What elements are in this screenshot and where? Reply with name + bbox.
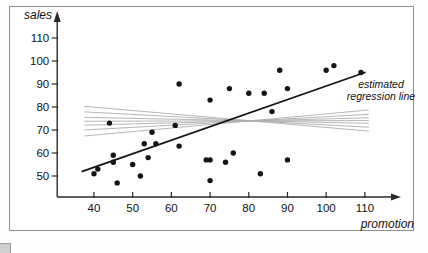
x-tick-label: 80	[242, 202, 255, 214]
data-point	[142, 141, 147, 146]
data-point	[331, 63, 336, 68]
annotation-line-1: estimated	[338, 79, 424, 91]
regression-line-annotation: estimated regression line	[338, 79, 424, 102]
x-axis-title: promotion	[344, 217, 414, 231]
x-tick-label: 50	[126, 202, 139, 214]
data-point	[258, 171, 263, 176]
data-point	[95, 166, 100, 171]
y-axis-title: sales	[24, 8, 52, 22]
data-point	[176, 143, 181, 148]
data-point	[114, 180, 119, 185]
y-tick-label: 90	[36, 78, 49, 90]
data-point	[111, 160, 116, 165]
data-point	[145, 155, 150, 160]
y-tick-label: 60	[36, 147, 49, 159]
data-point	[207, 178, 212, 183]
y-tick-label: 110	[31, 32, 49, 44]
data-point	[207, 157, 212, 162]
data-point	[227, 86, 232, 91]
x-tick-label: 40	[88, 202, 101, 214]
data-point	[130, 162, 135, 167]
x-tick-label: 100	[317, 202, 336, 214]
y-axis-arrow-icon	[54, 11, 61, 22]
data-point	[269, 109, 274, 114]
y-tick-label: 100	[30, 55, 49, 67]
data-point	[358, 70, 363, 75]
x-tick-label: 60	[165, 202, 178, 214]
y-tick-label: 70	[36, 124, 49, 136]
y-tick-label: 50	[36, 170, 49, 182]
annotation-line-2: regression line	[338, 91, 424, 103]
data-point	[285, 86, 290, 91]
x-tick-label: 70	[204, 202, 217, 214]
data-point	[223, 160, 228, 165]
next-figure-edge-artifact	[0, 243, 11, 253]
scatter-plot: 5060708090100110405060708090100110	[0, 0, 428, 253]
data-point	[107, 120, 112, 125]
data-point	[153, 141, 158, 146]
data-point	[285, 157, 290, 162]
scanned-figure-page: 5060708090100110405060708090100110 sales…	[0, 0, 428, 253]
x-tick-label: 110	[356, 202, 374, 214]
data-point	[111, 153, 116, 158]
data-point	[207, 97, 212, 102]
data-point	[138, 173, 143, 178]
data-point	[176, 81, 181, 86]
data-point	[173, 123, 178, 128]
data-point	[149, 130, 154, 135]
data-point	[277, 68, 282, 73]
y-tick-label: 80	[36, 101, 49, 113]
data-point	[91, 171, 96, 176]
data-point	[262, 91, 267, 96]
x-tick-label: 90	[281, 202, 294, 214]
data-point	[246, 91, 251, 96]
data-point	[323, 68, 328, 73]
data-point	[231, 150, 236, 155]
x-axis-arrow-icon	[391, 194, 401, 201]
